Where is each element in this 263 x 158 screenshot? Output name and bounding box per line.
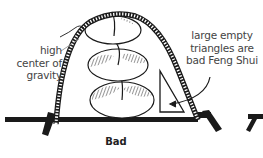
left-leg [42,112,56,136]
annotation-line: center of [10,57,62,70]
dumpling-middle [88,42,148,81]
annotation-high-center-of-gravity: high center of gravity [10,44,62,82]
figure-caption: Bad [96,136,136,147]
annotation-line: triangles are [183,42,261,55]
partial-figure-edge [246,114,263,132]
annotation-line: gravity [10,69,62,82]
annotation-line: high [10,44,62,57]
annotation-empty-triangles: large empty triangles are bad Feng Shui [183,29,261,67]
annotation-line: bad Feng Shui [183,54,261,67]
annotation-line: large empty [183,29,261,42]
dumpling-stack [85,12,154,118]
bad-feng-shui-illustration: high center of gravity large empty trian… [0,0,263,158]
